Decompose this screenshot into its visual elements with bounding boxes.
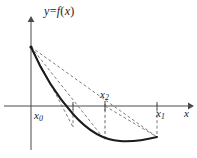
secant-line-x2-x1 bbox=[105, 106, 157, 137]
secant-method-figure: y=f(x) x0 x1 x2 x bbox=[0, 0, 197, 158]
function-curve bbox=[31, 47, 157, 141]
function-label: y=f(x) bbox=[44, 5, 75, 17]
label-x1-subscript: 1 bbox=[161, 112, 165, 121]
function-label-equals: = bbox=[50, 4, 57, 18]
diagram-canvas bbox=[0, 0, 197, 158]
curve-start-point bbox=[29, 45, 32, 48]
y-axis-group bbox=[28, 16, 35, 150]
label-x2-subscript: 2 bbox=[105, 93, 109, 102]
droplines-group bbox=[73, 104, 157, 140]
y-axis-arrowhead bbox=[28, 16, 35, 22]
secant-line-x0-x2 bbox=[31, 47, 105, 140]
label-x0-subscript: 0 bbox=[39, 114, 43, 123]
label-x1: x1 bbox=[156, 108, 165, 121]
x-axis-label: x bbox=[184, 108, 189, 119]
secant-lines-group bbox=[31, 47, 157, 140]
label-x2: x2 bbox=[100, 89, 109, 102]
label-x0: x0 bbox=[34, 110, 43, 123]
x-axis-group bbox=[4, 103, 194, 110]
function-label-paren-close: ) bbox=[70, 4, 74, 18]
secant-line-x0-x1 bbox=[31, 47, 157, 137]
